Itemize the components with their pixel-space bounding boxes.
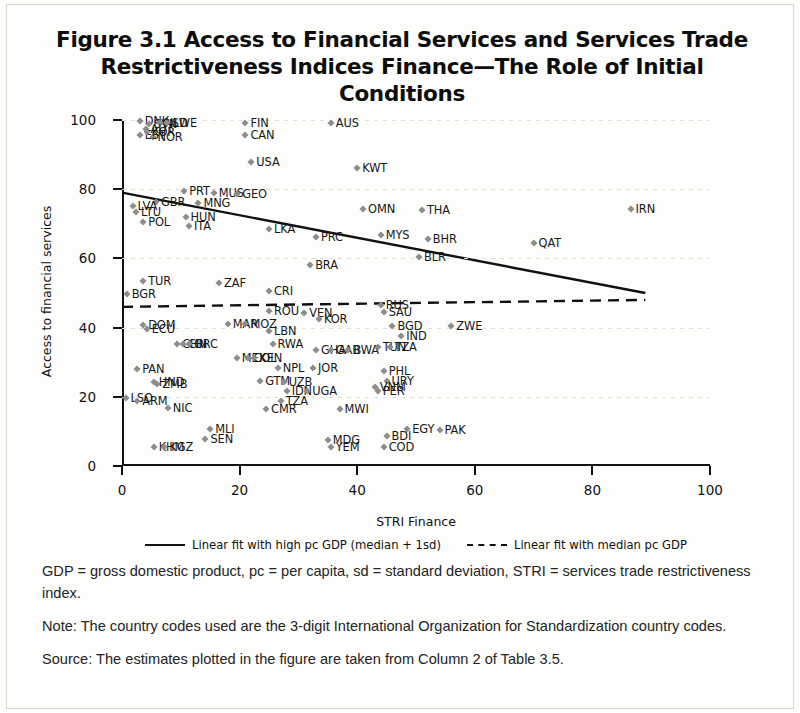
data-point-label: BLR: [424, 250, 446, 264]
fit-lines-layer: [122, 120, 710, 466]
y-axis-tick: [113, 396, 122, 398]
data-point-label: SWE: [172, 116, 197, 130]
y-axis-tick-label: 20: [36, 389, 96, 405]
y-axis-tick: [113, 188, 122, 190]
note-country-codes: Note: The country codes used are the 3-d…: [42, 615, 760, 637]
data-point-label: ITA: [194, 219, 211, 233]
data-point-label: LVA: [138, 199, 158, 213]
y-axis-tick-label: 40: [36, 320, 96, 336]
data-point-label: MWI: [345, 402, 369, 416]
y-axis-tick: [113, 327, 122, 329]
data-point-label: AUS: [336, 116, 359, 130]
data-point-label: BRA: [315, 258, 338, 272]
data-point-label: KOR: [324, 312, 347, 326]
data-point-label: GRC: [194, 337, 218, 351]
data-point-label: USA: [256, 155, 279, 169]
x-axis-tick: [591, 466, 593, 475]
data-point-label: UGA: [312, 384, 337, 398]
data-point-label: NPL: [283, 361, 304, 375]
data-point-label: KOR: [152, 125, 175, 139]
x-axis-tick: [239, 466, 241, 475]
data-point-label: BHR: [433, 232, 457, 246]
data-point-label: RWA: [278, 337, 304, 351]
scatter-chart: 020406080100020406080100DNKSVNNLDAUTSWEN…: [122, 120, 710, 466]
gridline: [122, 120, 710, 121]
legend-label: Linear fit with median pc GDP: [514, 538, 687, 552]
data-point-label: ARM: [142, 394, 167, 408]
x-axis-tick: [121, 466, 123, 475]
data-point-label: KGZ: [169, 440, 193, 454]
y-axis-tick-label: 100: [36, 112, 96, 128]
x-axis-tick-label: 20: [220, 482, 260, 498]
x-axis-tick-label: 100: [690, 482, 730, 498]
data-point-label: THA: [427, 203, 450, 217]
y-axis-tick-label: 60: [36, 250, 96, 266]
note-source: Source: The estimates plotted in the fig…: [42, 648, 760, 670]
x-axis-title: STRI Finance: [122, 514, 710, 529]
data-point-label: CAN: [250, 128, 274, 142]
figure-notes: GDP = gross domestic product, pc = per c…: [42, 560, 760, 670]
x-axis-tick-label: 40: [337, 482, 377, 498]
chart-legend: Linear fit with high pc GDP (median + 1s…: [122, 538, 710, 552]
data-point-label: HND: [159, 375, 185, 389]
data-point-label: PAK: [445, 423, 466, 437]
data-point-label: SAU: [389, 305, 412, 319]
data-point-label: BGR: [132, 287, 156, 301]
note-abbreviations: GDP = gross domestic product, pc = per c…: [42, 560, 760, 604]
y-axis-tick: [113, 257, 122, 259]
data-point-label: KWT: [362, 161, 387, 175]
x-axis-tick-label: 0: [102, 482, 142, 498]
data-point-label: POL: [148, 215, 170, 229]
legend-item: Linear fit with median pc GDP: [467, 538, 687, 552]
data-point-label: IRN: [636, 202, 656, 216]
data-point-label: KEN: [259, 351, 282, 365]
legend-dashed-line-swatch: [467, 544, 507, 546]
data-point-label: ZWE: [456, 319, 482, 333]
data-point-label: PRC: [321, 230, 343, 244]
data-point-label: SEN: [210, 432, 233, 446]
gridline: [122, 397, 710, 398]
y-axis-tick: [113, 119, 122, 121]
y-axis-tick-label: 80: [36, 181, 96, 197]
data-point-label: ECU: [152, 322, 175, 336]
y-axis-tick-label: 0: [36, 458, 96, 474]
x-axis-tick-label: 60: [455, 482, 495, 498]
data-point-label: GEO: [242, 187, 267, 201]
data-point-label: EGY: [412, 422, 434, 436]
data-point-label: CMR: [271, 402, 296, 416]
data-point-label: JOR: [318, 361, 338, 375]
data-point-label: MNG: [203, 196, 230, 210]
legend-item: Linear fit with high pc GDP (median + 1s…: [145, 538, 441, 552]
data-point-label: QAT: [539, 236, 562, 250]
data-point-label: LKA: [274, 222, 295, 236]
data-point-label: COD: [389, 440, 414, 454]
data-point-label: MOZ: [250, 317, 276, 331]
x-axis-tick: [474, 466, 476, 475]
data-point-label: MYS: [386, 228, 410, 242]
data-point-label: TZA: [395, 340, 417, 354]
legend-label: Linear fit with high pc GDP (median + 1s…: [192, 538, 441, 552]
x-axis-tick: [356, 466, 358, 475]
data-point-label: ROU: [274, 304, 299, 318]
x-axis-tick-label: 80: [572, 482, 612, 498]
data-point-label: GBR: [161, 195, 185, 209]
data-point-label: CRI: [274, 284, 293, 298]
figure-title: Figure 3.1 Access to Financial Services …: [40, 26, 764, 107]
data-point-label: OMN: [368, 202, 395, 216]
x-axis-tick: [709, 466, 711, 475]
data-point-label: YEM: [336, 440, 360, 454]
figure-page: Figure 3.1 Access to Financial Services …: [0, 0, 800, 713]
data-point-label: ZAF: [224, 276, 246, 290]
plot-area: Access to financial services 02040608010…: [0, 104, 800, 544]
data-point-label: PER: [383, 384, 405, 398]
data-point-label: NIC: [173, 401, 193, 415]
legend-solid-line-swatch: [145, 544, 185, 546]
